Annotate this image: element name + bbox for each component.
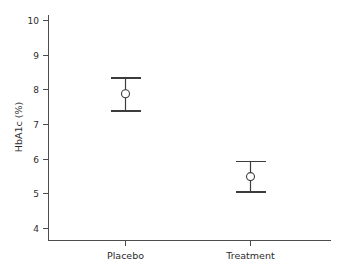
y-tick-label-10: 10 <box>28 16 40 26</box>
x-tick-label-treatment: Treatment <box>225 250 275 261</box>
errorbar-plot: 10 9 8 7 6 5 4 HbA1c (%) Placebo Treatme… <box>0 0 342 276</box>
y-tick-label-7: 7 <box>33 120 39 130</box>
y-tick-label-9: 9 <box>33 51 39 61</box>
marker-treatment <box>247 173 255 181</box>
y-axis-title: HbA1c (%) <box>13 102 24 152</box>
x-tick-label-placebo: Placebo <box>107 250 144 261</box>
marker-placebo <box>122 90 130 98</box>
y-tick-label-6: 6 <box>33 155 39 165</box>
y-tick-label-4: 4 <box>33 224 39 234</box>
y-tick-label-8: 8 <box>33 85 39 95</box>
chart-figure: 10 9 8 7 6 5 4 HbA1c (%) Placebo Treatme… <box>0 0 342 276</box>
plot-background <box>0 0 342 276</box>
y-tick-label-5: 5 <box>33 189 39 199</box>
